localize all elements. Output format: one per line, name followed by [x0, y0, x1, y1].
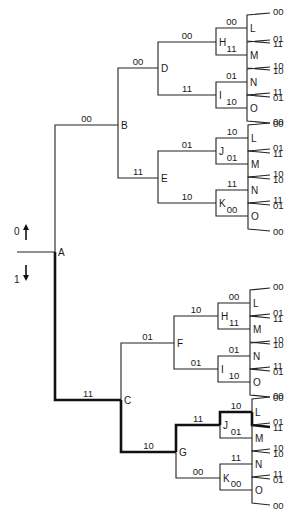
node-label-DI-N: N [250, 77, 257, 88]
node-label-D-I: I [219, 90, 222, 101]
arrow-up-icon [23, 224, 29, 240]
leaf-label: 01 [273, 33, 284, 44]
edge-label-DI-O: 10 [226, 96, 237, 107]
edge-label-GJ-L: 10 [231, 400, 242, 411]
leaf-label: 01 [273, 416, 284, 427]
edge-A-C [55, 252, 121, 400]
edge-label-C-G: 10 [143, 440, 154, 451]
node-label-FH-M: M [253, 324, 261, 335]
node-label-G-K: K [223, 473, 230, 484]
leaf-label: 00 [273, 281, 284, 292]
node-label-DH-M: M [250, 50, 258, 61]
node-label-DI-O: O [250, 103, 258, 114]
trellis-tree-diagram: A00B11C00D11E01F10G00H11I01J10K10H01I11J… [0, 0, 299, 515]
node-label-FI-O: O [253, 377, 261, 388]
direction-legend: 0 1 [14, 224, 29, 285]
edge-label-DH-M: 11 [227, 43, 237, 54]
edge-label-FI-O: 10 [229, 370, 240, 381]
edge-label-GJ-M: 01 [231, 426, 242, 437]
legend-zero-label: 0 [14, 226, 20, 237]
tree-svg: A00B11C00D11E01F10G00H11I01J10K10H01I11J… [0, 0, 299, 515]
node-label-EK-O: O [251, 211, 259, 222]
leaf-label: 11 [273, 468, 283, 479]
node-label-DH-L: L [250, 23, 256, 34]
edge-label-FH-M: 11 [229, 317, 239, 328]
leaf-label: 01 [273, 142, 284, 153]
edge-label-FI-N: 01 [229, 344, 240, 355]
leaf-label: 11 [273, 360, 283, 371]
edge-A-B [55, 125, 118, 252]
edge-label-E-J: 01 [182, 139, 193, 150]
node-label-F-I: I [221, 364, 224, 375]
node-label-GJ-M: M [255, 433, 263, 444]
edge-label-E-K: 10 [182, 191, 193, 202]
node-label-B-E: E [161, 173, 168, 184]
leaf-label: 01 [273, 307, 284, 318]
leaf-label: 10 [273, 168, 284, 179]
edge-label-A-B: 00 [81, 113, 92, 124]
edge-label-D-I: 11 [182, 83, 192, 94]
leaf-label: 00 [273, 390, 284, 401]
edge-label-B-E: 11 [133, 166, 143, 177]
node-label-EJ-M: M [251, 159, 259, 170]
node-label-EK-N: N [251, 185, 258, 196]
node-label-EJ-L: L [251, 133, 257, 144]
edge-label-F-I: 01 [191, 357, 202, 368]
node-label-GK-N: N [255, 459, 262, 470]
legend-one-label: 1 [14, 274, 20, 285]
node-label-G-J: J [223, 420, 228, 431]
node-label-C-G: G [179, 447, 187, 458]
edge-label-DH-L: 00 [226, 16, 237, 27]
edge-label-D-H: 00 [182, 30, 193, 41]
edge-label-G-K: 00 [193, 466, 204, 477]
leaf-label: 00 [273, 116, 284, 127]
node-label-GK-O: O [255, 485, 263, 496]
node-label-E-J: J [219, 146, 224, 157]
node-label-E-K: K [219, 198, 226, 209]
node-label-B-D: D [161, 63, 168, 74]
arrow-down-icon [23, 265, 29, 281]
edge-label-DI-N: 01 [226, 70, 237, 81]
node-label-C-F: F [177, 338, 183, 349]
edge-label-B-D: 00 [133, 56, 144, 67]
edge-label-GK-O: 00 [231, 478, 242, 489]
leaf-label: 00 [273, 6, 284, 17]
edge-label-A-C: 11 [83, 388, 93, 399]
leaf-label: 10 [273, 60, 284, 71]
leaf-label: 11 [273, 86, 283, 97]
node-label-A-C: C [124, 395, 131, 406]
leaf-label: 00 [273, 500, 284, 511]
edge-label-EJ-M: 01 [227, 152, 238, 163]
node-label-A-B: B [121, 120, 128, 131]
node-label-FH-L: L [253, 298, 259, 309]
node-label-A: A [58, 247, 65, 258]
leaf-label: 10 [273, 334, 284, 345]
node-label-D-H: H [219, 37, 226, 48]
edge-label-C-F: 01 [142, 331, 153, 342]
leaf-label: 10 [273, 442, 284, 453]
edge-label-G-J: 11 [193, 413, 203, 424]
node-label-F-H: H [221, 311, 228, 322]
node-label-GJ-L: L [255, 407, 261, 418]
edge-label-EK-N: 11 [227, 178, 237, 189]
edge-label-F-H: 10 [191, 304, 202, 315]
tree-labels: A00B11C00D11E01F10G00H11I01J10K10H01I11J… [58, 6, 284, 511]
edge-B-D [118, 68, 158, 125]
node-label-FI-N: N [253, 351, 260, 362]
edge-label-FH-L: 00 [229, 291, 240, 302]
edge-C-F [121, 343, 174, 400]
leaf-label: 11 [273, 194, 283, 205]
edge-label-GK-N: 11 [231, 452, 241, 463]
leaf-label: 00 [273, 226, 284, 237]
edge-label-EK-O: 00 [227, 204, 238, 215]
edge-label-EJ-L: 10 [227, 126, 238, 137]
